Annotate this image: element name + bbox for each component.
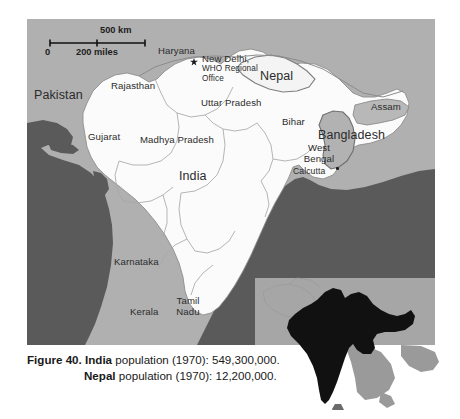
caption-nepal-population: population (1970): 12,200,000.	[116, 369, 277, 382]
new-delhi-star-icon	[192, 59, 196, 63]
label-gujarat: Gujarat	[88, 132, 120, 142]
figure-caption: Figure 40. India population (1970): 549,…	[27, 352, 447, 385]
scale-rule-graphic	[49, 39, 146, 47]
caption-country-nepal: Nepal	[84, 369, 116, 382]
label-uttar-pradesh: Uttar Pradesh	[201, 98, 262, 108]
label-west-bengal-line2: Bengal	[295, 154, 343, 164]
label-madhya-pradesh: Madhya Pradesh	[140, 135, 214, 145]
caption-figure-number: Figure 40.	[27, 353, 82, 366]
calcutta-city-dot-icon	[336, 167, 339, 170]
label-india: India	[179, 170, 207, 184]
label-karnataka: Karnataka	[114, 257, 159, 267]
label-bangladesh: Bangladesh	[318, 129, 385, 143]
caption-line-1: Figure 40. India population (1970): 549,…	[27, 352, 447, 368]
label-west-bengal-line1: West	[299, 143, 339, 153]
inset-locator-map	[255, 278, 435, 345]
label-tamil-nadu-line2: Nadu	[170, 307, 206, 317]
caption-india-population: population (1970): 549,300,000.	[112, 353, 280, 366]
label-rajasthan: Rajasthan	[111, 81, 155, 91]
label-tamil-nadu-line1: Tamil	[170, 296, 206, 306]
inset-graphic	[225, 270, 460, 410]
label-who-office-line1: WHO Regional	[202, 65, 258, 74]
label-who-office-line2: Office	[202, 75, 224, 84]
label-new-delhi: New Delhi,	[202, 54, 249, 64]
label-nepal: Nepal	[260, 70, 293, 84]
label-kerala: Kerala	[130, 307, 158, 317]
figure-india-nepal-map: 500 km 0 200 miles Pakistan Haryana Raja…	[0, 0, 460, 419]
caption-country-india: India	[85, 353, 112, 366]
label-pakistan: Pakistan	[34, 89, 83, 103]
scale-zero-label: 0	[45, 47, 50, 57]
scale-km-label: 500 km	[100, 25, 132, 35]
label-assam: Assam	[371, 102, 401, 112]
scale-miles-label: 200 miles	[76, 47, 118, 57]
label-calcutta: Calcutta	[293, 167, 325, 176]
scale-bar: 500 km 0 200 miles	[38, 25, 158, 59]
caption-line-2: Nepal population (1970): 12,200,000.	[27, 368, 447, 384]
label-bihar: Bihar	[282, 117, 305, 127]
label-haryana: Haryana	[158, 46, 195, 56]
